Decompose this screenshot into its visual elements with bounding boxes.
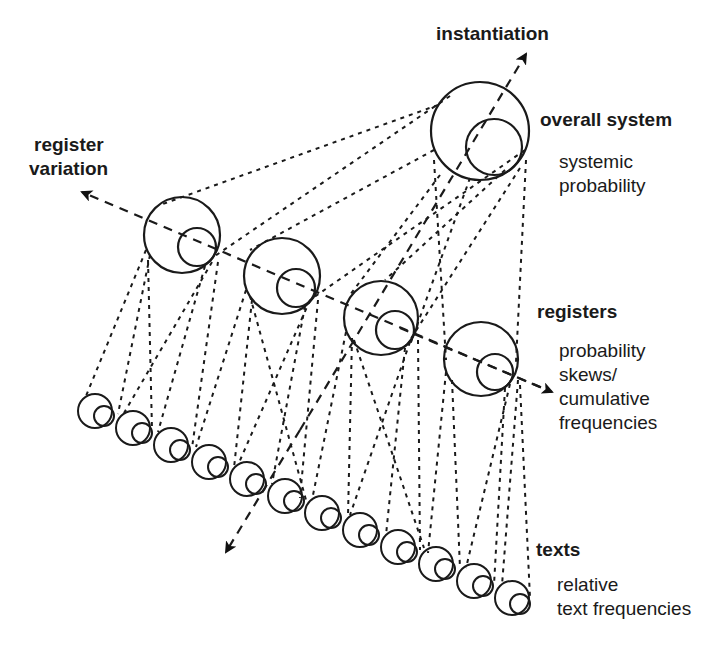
overall-system-desc-line1: systemic [559, 150, 633, 174]
register-circle [144, 197, 220, 273]
text-circle [192, 445, 228, 479]
text-circle [495, 581, 530, 615]
register-variation-label-line1: register [34, 133, 104, 157]
texts-desc-line2: text frequencies [557, 597, 691, 621]
overall-system-title: overall system [540, 108, 672, 132]
text-circle [116, 411, 152, 445]
text-circle [305, 496, 341, 530]
system-to-register-connectors [160, 96, 526, 362]
texts-desc-line1: relative [557, 573, 618, 597]
registers-desc-line4: frequencies [559, 411, 657, 435]
overall-system-circle [431, 82, 529, 180]
text-circle [268, 479, 304, 513]
texts-title: texts [536, 538, 580, 562]
register-circle [444, 322, 518, 396]
text-circle [230, 462, 266, 496]
text-circle [457, 564, 493, 598]
text-circle [154, 428, 190, 462]
registers-title: registers [537, 300, 617, 324]
instantiation-axis-up [300, 54, 526, 430]
instantiation-label: instantiation [436, 22, 549, 46]
register-circle [244, 238, 320, 314]
registers-desc-line1: probability [559, 339, 646, 363]
text-circle [419, 547, 455, 581]
text-circles [78, 394, 530, 615]
register-variation-axis [82, 192, 540, 387]
register-circles [144, 197, 518, 396]
registers-desc-line2: skews/ [559, 363, 617, 387]
register-variation-label-line2: variation [29, 157, 108, 181]
instantiation-diagram [0, 0, 725, 648]
overall-system-desc-line2: probability [559, 174, 646, 198]
text-circle [78, 394, 114, 428]
registers-desc-line3: cumulative [559, 387, 650, 411]
text-circle [343, 513, 379, 547]
register-circle [344, 281, 418, 355]
text-circle [381, 530, 417, 564]
register-variation-axis-forward [400, 328, 552, 392]
